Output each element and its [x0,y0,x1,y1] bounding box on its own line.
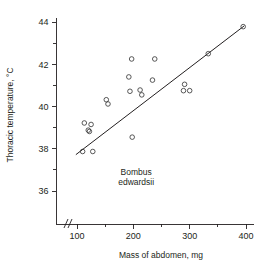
species-label-line1: Bombus [121,167,152,177]
break-slash-2 [68,219,72,228]
data-point-marker [106,102,111,107]
regression-line [76,26,244,155]
data-point-marker [87,129,92,134]
x-tick-label: 100 [69,231,84,241]
y-tick-label: 40 [38,102,48,112]
x-tick-label: 200 [126,231,141,241]
data-point-marker [82,121,87,126]
data-point-marker [86,128,91,133]
x-axis-ticks: 100200300400 [69,224,253,241]
data-point-marker [129,57,134,62]
x-axis-break-icon [64,219,72,228]
data-point-marker [127,75,132,80]
y-tick-label: 38 [38,144,48,154]
x-tick-label: 400 [238,231,253,241]
y-axis-title: Thoracic temperature, °C [5,67,15,162]
scatter-plot-figure: 1002003004003638404244BombusedwardsiiMas… [0,0,270,270]
data-point-marker [187,88,192,93]
data-point-marker [152,57,157,62]
y-tick-label: 36 [38,186,48,196]
data-point-marker [138,88,143,93]
data-point-marker [150,78,155,83]
x-tick-label: 300 [182,231,197,241]
data-point-marker [128,89,133,94]
break-slash-1 [64,219,68,228]
data-point-marker [139,93,144,98]
x-axis-title: Mass of abdomen, mg [119,250,203,260]
data-point-marker [90,149,95,154]
data-point-marker [89,122,94,127]
data-point-marker [182,82,187,87]
y-axis-ticks: 3638404244 [38,17,56,196]
data-point-marker [130,135,135,140]
species-label-line2: edwardsii [118,177,154,187]
plot-canvas: 1002003004003638404244BombusedwardsiiMas… [0,0,270,270]
data-point-marker [181,88,186,93]
y-tick-label: 44 [38,17,48,27]
y-tick-label: 42 [38,60,48,70]
